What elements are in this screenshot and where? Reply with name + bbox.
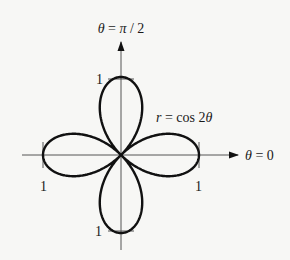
vertical-axis-label: θ = π / 2 bbox=[98, 21, 145, 36]
tick-label-left: 1 bbox=[40, 179, 47, 194]
tick-label-right: 1 bbox=[195, 179, 202, 194]
tick-label-top: 1 bbox=[96, 72, 103, 87]
tick-label-bottom: 1 bbox=[95, 224, 102, 239]
horizontal-axis-label: θ = 0 bbox=[245, 148, 274, 163]
polar-rose-diagram: θ = π / 2 θ = 0 r = cos 2θ 1 1 1 1 bbox=[0, 0, 290, 260]
equation-label: r = cos 2θ bbox=[156, 110, 213, 125]
